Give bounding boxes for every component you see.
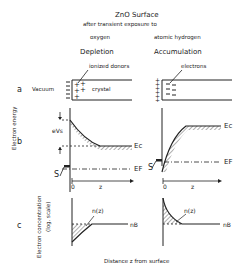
n-b-label-left: nB — [130, 222, 138, 228]
svg-text:+: + — [80, 86, 86, 94]
crystal-label: crystal — [92, 87, 110, 93]
panel-c-depletion — [72, 198, 128, 246]
title: ZnO Surface — [115, 12, 159, 19]
y-axis-sublabel: (log. scale) — [46, 202, 52, 232]
origin-label-left: 0 — [71, 184, 75, 190]
n-z-label-left: n(z) — [92, 208, 104, 214]
fermi-level-label-right: EF — [224, 159, 232, 166]
subtitle: after transient exposure to — [83, 22, 157, 28]
panel-c-accumulation — [163, 198, 220, 246]
condition-atomic-hydrogen: atomic hydrogen — [154, 35, 201, 41]
n-b-label-right: nB — [223, 222, 231, 228]
fermi-level-label-left: EF — [134, 166, 142, 173]
regime-depletion: Depletion — [80, 49, 114, 56]
panel-b-accumulation — [152, 108, 222, 184]
regime-accumulation: Accumulation — [154, 49, 202, 56]
electrons-label: electrons — [181, 64, 206, 70]
condition-oxygen: oxygen — [90, 35, 110, 41]
y-axis-label-energy: Electron energy — [12, 107, 18, 150]
panel-a-accumulation: ++ ++ ++ — [155, 70, 232, 103]
z-label-left: z — [99, 184, 102, 190]
svg-text:+: + — [155, 96, 160, 103]
conduction-band-label-right: Ec — [224, 123, 232, 130]
vacuum-label: Vacuum — [32, 87, 54, 93]
panel-label-a: a — [17, 86, 22, 94]
ionized-donors-label: ionized donors — [89, 64, 129, 70]
panel-label-c: c — [17, 222, 21, 230]
n-z-label-right: n(z) — [184, 208, 196, 214]
panel-label-b: b — [17, 138, 22, 146]
surface-state-label-right: S — [148, 164, 153, 172]
surface-state-label-left: S — [54, 171, 59, 179]
z-label-right: z — [191, 184, 194, 190]
y-axis-label-concentration: Electron concentration — [37, 196, 43, 258]
svg-text:+: + — [74, 93, 80, 101]
x-axis-caption: Distance z from surface — [104, 259, 169, 265]
panel-b-depletion — [58, 108, 134, 192]
conduction-band-label-left: Ec — [134, 143, 142, 150]
origin-label-right: 0 — [163, 184, 167, 190]
surface-potential-label: eVs — [52, 128, 63, 134]
